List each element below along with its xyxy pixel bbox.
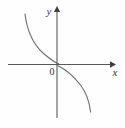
y-axis-arrow-icon bbox=[54, 6, 60, 12]
coordinate-plane-svg: y x 0 bbox=[0, 0, 125, 128]
x-axis-label: x bbox=[112, 66, 118, 78]
graph-figure: y x 0 bbox=[0, 0, 125, 128]
curve-branch-second-quadrant bbox=[25, 14, 59, 64]
curve-branch-fourth-quadrant bbox=[58, 65, 91, 112]
origin-label: 0 bbox=[50, 66, 55, 77]
y-axis-label: y bbox=[46, 5, 52, 17]
